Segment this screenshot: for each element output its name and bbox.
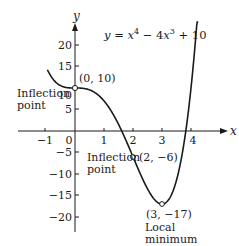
y-tick-label: −10 [49,168,72,181]
point-label: (3, −17) [146,208,192,221]
y-tick-label: −5 [56,146,72,159]
y-tick-label: 15 [58,60,72,73]
point-label: (2, −6) [139,151,178,164]
x-tick-label: 2 [130,134,137,147]
point-label: (0, 10) [79,72,116,85]
y-axis-arrow-icon [72,23,78,31]
equation-label: y = x4 − 4x3 + 10 [103,27,207,42]
x-tick-label: 1 [101,134,108,147]
x-axis-arrow-icon [220,128,228,134]
y-axis-label: y [72,9,80,23]
annotation-text: point [87,163,116,176]
annotation-text: minimum [145,233,198,246]
y-tick-label: 20 [58,39,72,52]
y-tick-label: 5 [65,103,72,116]
annotation-text: point [17,99,46,112]
local-minimum-marker [160,202,165,207]
y-tick-label: −15 [49,189,72,202]
x-axis-label: x [230,124,237,138]
x-tick-label: 3 [159,134,166,147]
inflection-point-marker [72,85,77,90]
x-tick-label: 4 [190,134,197,147]
function-graph: x −1 0 1 2 3 4 y 20 15 10 5 −5 −10 −15 −… [0,0,239,246]
x-tick-label: −1 [37,134,53,147]
y-tick-label: −20 [49,211,72,224]
y-axis: y 20 15 10 5 −5 −10 −15 −20 [49,9,80,232]
